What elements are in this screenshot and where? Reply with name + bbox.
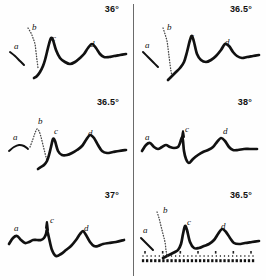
- panel-1-series-main-trace: [34, 38, 126, 78]
- ruler-minor-tick: [219, 259, 221, 262]
- panel-4-angle-label: 38°: [238, 97, 252, 107]
- ruler-minor-tick: [227, 259, 229, 262]
- panel-6-peak-label-c: c: [187, 218, 191, 227]
- ruler-major-tick: [250, 251, 252, 254]
- panel-3-peak-label-a: a: [13, 133, 18, 142]
- panel-3-series-shoulder-a: [9, 145, 28, 151]
- panel-4-plot: acd: [137, 107, 263, 177]
- panel-4-peak-label-d: d: [223, 127, 228, 136]
- panel-5-peak-label-d: d: [84, 224, 89, 233]
- ruler-dot: [151, 255, 152, 257]
- ruler-minor-tick: [191, 259, 193, 262]
- ruler-dot: [252, 255, 253, 257]
- ruler-dot: [212, 255, 213, 257]
- ruler-major-tick: [215, 251, 217, 254]
- ruler-minor-tick: [211, 259, 213, 262]
- ruler-minor-tick: [248, 259, 250, 262]
- ruler-dot: [163, 255, 164, 257]
- ruler-dot: [228, 255, 229, 257]
- ruler-minor-tick: [174, 259, 176, 262]
- panel-3-angle-label: 36.5°: [97, 97, 119, 107]
- panel-2-peak-label-a: a: [145, 41, 150, 50]
- panel-2-trace-svg: [137, 14, 263, 84]
- ruler-minor-tick: [223, 259, 225, 262]
- ruler-dot: [171, 255, 172, 257]
- panel-5: 37° acd: [0, 186, 133, 279]
- panel-2-series-shoulder-b: [163, 28, 172, 76]
- panel-4: 38° acd: [133, 93, 266, 186]
- panel-2-peak-label-c: c: [190, 32, 194, 41]
- panel-4-series-spike-c: [182, 131, 184, 137]
- ruler-minor-tick: [199, 259, 201, 262]
- panel-6-series-shoulder-a: [141, 238, 153, 250]
- ruler-major-tick: [233, 251, 235, 254]
- panel-2-angle-label: 36.5°: [230, 4, 252, 14]
- panel-2-peak-label-b: b: [167, 23, 172, 32]
- ruler-minor-tick: [158, 259, 160, 262]
- ruler-minor-tick: [179, 259, 181, 262]
- panel-4-peak-label-c: c: [185, 125, 189, 134]
- ruler-minor-tick: [154, 259, 156, 262]
- ruler-dot: [191, 255, 192, 257]
- panel-1-peak-label-a: a: [14, 42, 19, 51]
- ruler-dot: [183, 255, 184, 257]
- panel-6-peak-label-d: d: [221, 222, 226, 231]
- ruler-dot: [175, 255, 176, 257]
- ruler-minor-tick: [150, 259, 152, 262]
- ruler-minor-tick: [207, 259, 209, 262]
- ruler-major-tick: [180, 251, 182, 254]
- ruler-minor-tick: [142, 259, 144, 262]
- panel-3-peak-label-d: d: [88, 129, 93, 138]
- ruler-dot: [248, 255, 249, 257]
- ruler-minor-tick: [146, 259, 148, 262]
- panel-2-series-shoulder-a: [143, 52, 158, 67]
- panel-1-angle-label: 36°: [105, 4, 119, 14]
- panel-5-peak-label-c: c: [50, 216, 54, 225]
- ruler-minor-tick: [215, 259, 217, 262]
- ruler-minor-tick: [236, 259, 238, 262]
- ruler-major-tick: [197, 251, 199, 254]
- ruler-dot: [216, 255, 217, 257]
- panel-6-peak-label-a: a: [143, 226, 148, 235]
- panel-3-peak-label-c: c: [54, 127, 58, 136]
- ruler-minor-tick: [187, 259, 189, 262]
- panel-1-peak-label-d: d: [90, 40, 95, 49]
- panel-2-peak-label-d: d: [225, 38, 230, 47]
- ruler-dot: [179, 255, 180, 257]
- panel-3: 36.5° abcd: [0, 93, 133, 186]
- ruler-dot: [208, 255, 209, 257]
- figure-root: 36° abcd 36.5° abcd 36.5° abcd 38° acd 3…: [0, 0, 266, 280]
- ruler-dot: [146, 255, 147, 257]
- panel-6-angle-label: 36.5°: [230, 190, 252, 200]
- ruler-minor-tick: [240, 259, 242, 262]
- ruler-major-tick: [162, 251, 164, 254]
- ruler-dot: [159, 255, 160, 257]
- ruler-minor-tick: [244, 259, 246, 262]
- panel-3-series-scatter-b: [30, 129, 47, 161]
- panel-3-trace-svg: [4, 107, 130, 177]
- ruler-dot: [240, 255, 241, 257]
- panel-5-peak-label-a: a: [14, 224, 19, 233]
- ruler-dot: [167, 255, 168, 257]
- panel-1-peak-label-c: c: [52, 34, 56, 43]
- panel-1: 36° abcd: [0, 0, 133, 93]
- panel-1-series-shoulder-a: [10, 52, 24, 65]
- panel-4-trace-svg: [137, 107, 263, 177]
- panel-2-plot: abcd: [137, 14, 263, 84]
- ruler-dot: [195, 255, 196, 257]
- ruler-dot: [220, 255, 221, 257]
- ruler-minor-tick: [183, 259, 185, 262]
- ruler-minor-tick: [195, 259, 197, 262]
- panel-5-series-main-trace: [9, 230, 124, 256]
- panel-2-series-main-trace: [168, 36, 259, 80]
- ruler-dot: [232, 255, 233, 257]
- panel-3-peak-label-b: b: [38, 117, 43, 126]
- ruler-minor-tick: [252, 259, 254, 262]
- tick-scale-ruler: [141, 250, 255, 264]
- tick-scale-svg: [141, 250, 255, 264]
- ruler-dot: [204, 255, 205, 257]
- panel-1-series-shoulder-b: [28, 28, 38, 68]
- ruler-minor-tick: [232, 259, 234, 262]
- panel-6: 36.5° abcd: [133, 186, 266, 279]
- ruler-dot: [244, 255, 245, 257]
